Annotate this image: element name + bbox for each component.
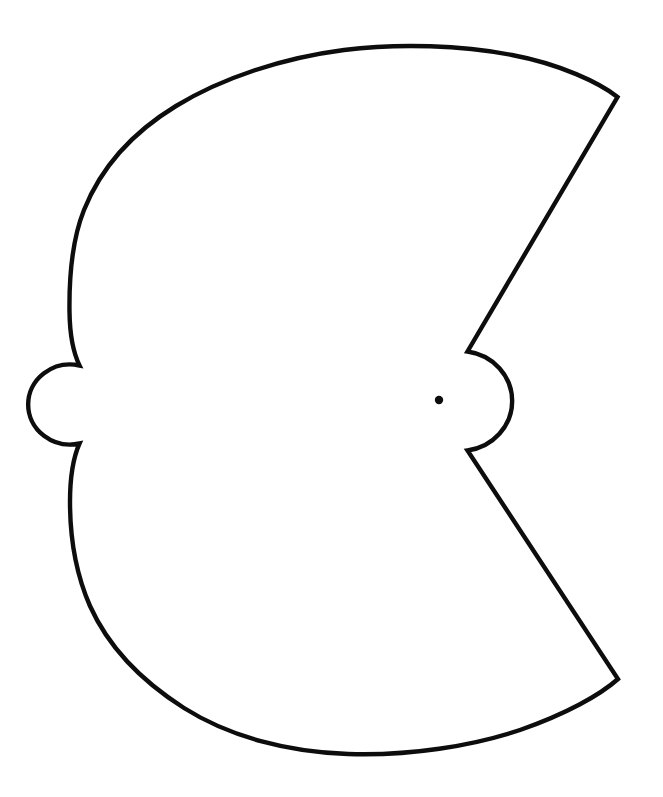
diagram-canvas	[0, 0, 663, 797]
fan-sector-outline-svg	[0, 0, 663, 797]
canvas-background	[0, 0, 663, 797]
pivot-point-dot	[435, 396, 443, 404]
